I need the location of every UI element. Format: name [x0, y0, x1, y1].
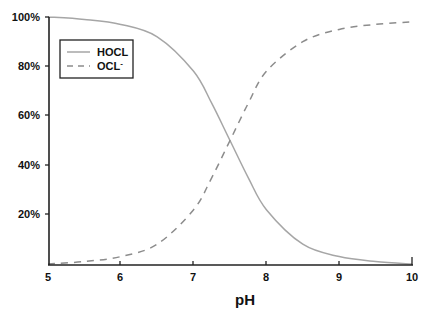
y-tick-label: 40% [18, 159, 40, 171]
legend: HOCL OCL- [60, 40, 133, 78]
x-tick-label: 9 [336, 271, 342, 283]
y-tick-label: 100% [12, 11, 40, 23]
legend-label-hocl: HOCL [97, 46, 128, 58]
y-tick-label: 60% [18, 109, 40, 121]
chart: 100% 80% 60% 40% 20% 5 6 7 8 9 10 pH HOC… [0, 0, 429, 320]
legend-label-ocl: OCL- [97, 59, 123, 72]
y-tick-label: 20% [18, 208, 40, 220]
y-ticks: 100% 80% 60% 40% 20% [12, 11, 49, 220]
x-tick-label: 8 [263, 271, 269, 283]
x-tick-label: 7 [190, 271, 196, 283]
x-axis-title: pH [235, 291, 255, 308]
x-tick-label: 6 [117, 271, 123, 283]
x-tick-label: 10 [406, 271, 418, 283]
x-tick-label: 5 [45, 271, 51, 283]
y-tick-label: 80% [18, 60, 40, 72]
